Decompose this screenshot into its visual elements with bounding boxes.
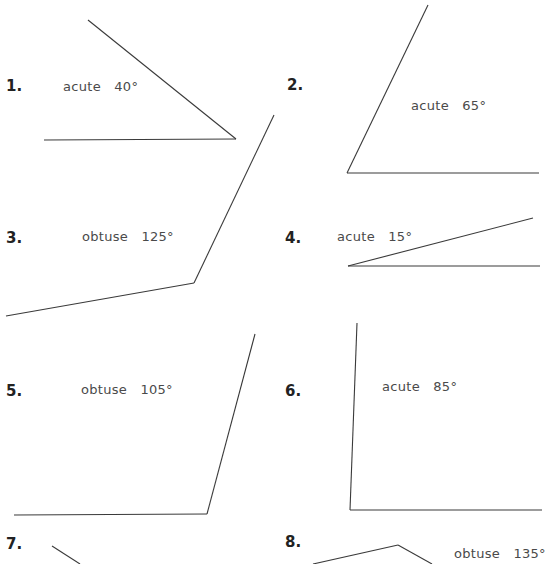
problem-5-label: obtuse 105°: [81, 382, 173, 397]
problem-1-label: acute 40°: [63, 79, 138, 94]
problem-1-number: 1.: [6, 77, 22, 95]
problem-4-label: acute 15°: [337, 229, 412, 244]
angle-7: [52, 546, 80, 564]
problem-5-number: 5.: [6, 382, 22, 400]
angle-8: [313, 545, 432, 564]
problem-4-number: 4.: [285, 229, 301, 247]
problem-6-number: 6.: [285, 382, 301, 400]
angle-5: [14, 334, 255, 515]
problem-8-number: 8.: [285, 533, 301, 551]
problem-2-label: acute 65°: [411, 98, 486, 113]
angle-6: [350, 323, 542, 510]
problem-3-label: obtuse 125°: [82, 229, 174, 244]
problem-2-number: 2.: [287, 76, 303, 94]
angle-3: [6, 115, 274, 316]
problem-6-label: acute 85°: [382, 379, 457, 394]
problem-7-number: 7.: [6, 535, 22, 553]
angle-2: [347, 5, 539, 173]
problem-3-number: 3.: [6, 229, 22, 247]
problem-8-label: obtuse 135°: [454, 546, 546, 561]
